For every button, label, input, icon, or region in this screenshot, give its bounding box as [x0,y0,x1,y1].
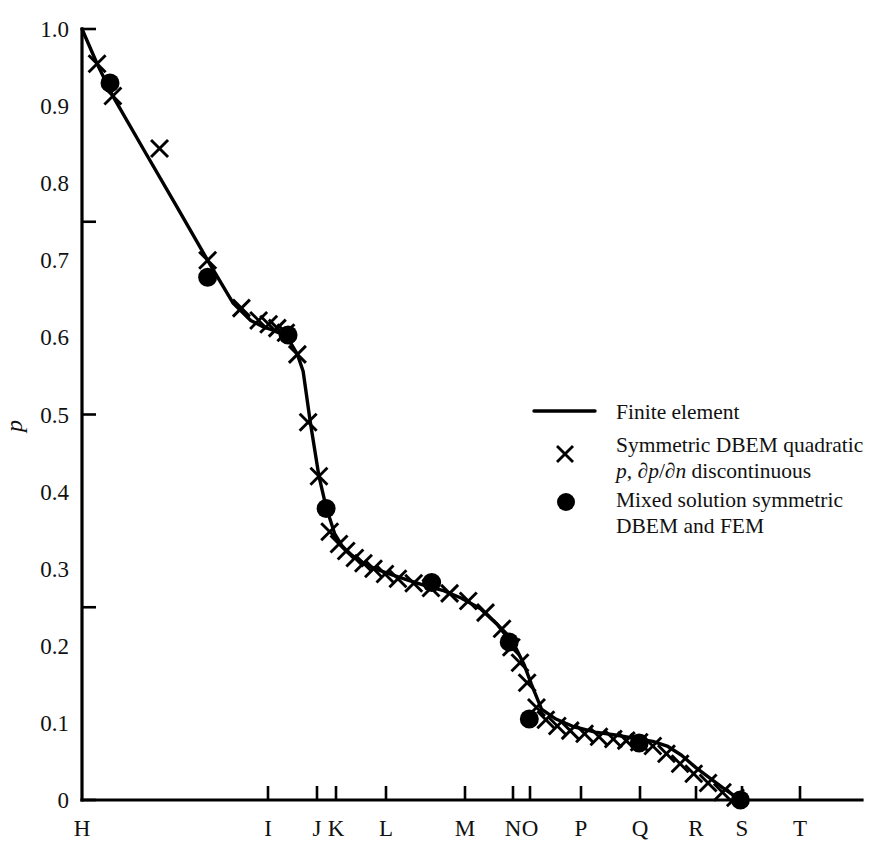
y-tick-label: 0.3 [40,557,69,582]
dot-marker [731,791,750,810]
x-tick-label: O [522,816,539,841]
legend-label-mixed-line1: Mixed solution symmetric [616,488,843,512]
legend-dot-swatch [557,493,575,511]
cross-marker [346,549,363,566]
x-tick-label: L [379,816,393,841]
x-axis-tick-labels: HIJKLMNOPQRST [74,816,807,841]
x-tick-label: N [505,816,522,841]
legend-dbem-slash: /∂ [659,459,676,483]
legend-dbem-p1: p [614,459,627,483]
dot-marker [101,73,120,92]
dot-marker [630,733,649,752]
legend-dbem-p2: p [646,459,659,483]
y-tick-label: 0.1 [40,711,69,736]
y-tick-label: 0.6 [40,325,69,350]
x-tick-label: M [455,816,475,841]
legend-dbem-n: n [675,459,686,483]
y-tick-label: 0.4 [40,480,69,505]
cross-marker [477,604,494,621]
y-axis-group: 1.00.90.80.70.60.50.40.30.20.10 p [1,17,96,813]
series-symmetric-dbem [89,55,744,806]
cross-marker [151,140,168,157]
x-tick-label: Q [632,816,649,841]
figure-container: 1.00.90.80.70.60.50.40.30.20.10 p HIJKLM… [0,0,876,860]
x-tick-label: P [575,816,588,841]
y-tick-label: 0 [58,788,70,813]
x-tick-label: K [328,816,345,841]
dot-marker [500,632,519,651]
dot-marker [520,710,539,729]
x-tick-label: S [736,816,749,841]
legend-dbem-comma: , ∂ [627,459,648,483]
legend: Finite element Symmetric DBEM quadratic … [534,400,863,538]
legend-label-dbem-line1: Symmetric DBEM quadratic [616,433,863,457]
cross-marker [460,593,477,610]
y-tick-label: 0.7 [40,248,69,273]
legend-cross-swatch [557,446,573,462]
chart-canvas: 1.00.90.80.70.60.50.40.30.20.10 p HIJKLM… [0,0,876,860]
cross-marker [199,252,216,269]
legend-dbem-tail: discontinuous [686,459,811,483]
legend-label-finite-element: Finite element [616,400,740,424]
y-tick-label: 0.8 [40,171,69,196]
cross-marker [672,755,689,772]
cross-marker [289,346,306,363]
cross-marker [89,55,106,72]
y-axis-title: p [1,420,27,434]
y-axis-tick-labels: 1.00.90.80.70.60.50.40.30.20.10 [40,17,69,813]
dot-marker [422,573,441,592]
y-tick-label: 0.5 [40,403,69,428]
y-tick-label: 1.0 [40,17,69,42]
legend-label-dbem-line2: p, ∂p/∂n discontinuous [614,459,811,483]
y-tick-label: 0.2 [40,634,69,659]
dot-marker [198,268,217,287]
cross-marker [441,585,458,602]
x-tick-label: J [313,816,322,841]
x-tick-label: H [74,816,91,841]
x-tick-label: R [688,816,704,841]
legend-label-mixed-line2: DBEM and FEM [616,514,764,538]
dot-marker [279,326,298,345]
x-tick-label: T [793,816,807,841]
y-tick-label: 0.9 [40,94,69,119]
cross-marker [233,300,250,317]
x-tick-label: I [264,816,272,841]
dot-marker [317,499,336,518]
y-axis-tick-marks [82,29,96,800]
